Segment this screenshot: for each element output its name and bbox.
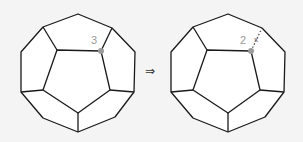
marked-vertex	[98, 48, 104, 54]
removed-edge-mark: x	[254, 35, 258, 44]
vertex-degree-label: 2	[240, 34, 246, 46]
right-dodecahedron: x 2	[171, 14, 285, 132]
dodecahedron-diagram: 3 ⇒ x 2	[0, 0, 303, 142]
vertex-degree-label: 3	[91, 34, 97, 46]
diagram-canvas: 3 ⇒ x 2	[0, 0, 303, 142]
implies-arrow: ⇒	[145, 64, 155, 78]
marked-vertex	[248, 48, 254, 54]
left-dodecahedron: 3	[21, 14, 135, 132]
